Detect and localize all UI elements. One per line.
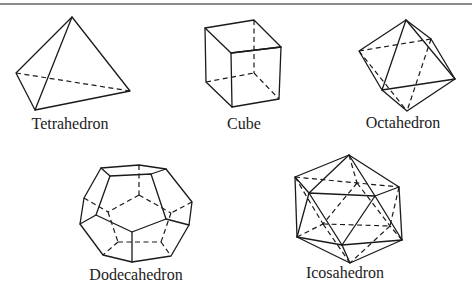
icosahedron-label: Icosahedron [306, 265, 384, 281]
icosahedron-drawing [295, 155, 402, 263]
dodecahedron-drawing [80, 165, 192, 262]
tetrahedron-drawing [16, 17, 130, 110]
octahedron-drawing [359, 20, 455, 111]
platonic-solids-diagram [0, 0, 472, 286]
cube-label: Cube [227, 116, 261, 132]
cube-drawing [205, 20, 281, 107]
tetrahedron-label: Tetrahedron [31, 116, 108, 132]
octahedron-label: Octahedron [366, 115, 441, 131]
dodecahedron-label: Dodecahedron [89, 267, 182, 283]
